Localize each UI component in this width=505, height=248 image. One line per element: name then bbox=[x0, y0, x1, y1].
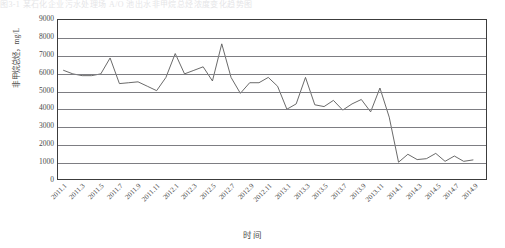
y-axis-tick-label: 6000 bbox=[14, 69, 54, 77]
y-axis-tick-label: 4000 bbox=[14, 104, 54, 112]
chart-page: 图3-1 某石化企业污水处理场 A/O 池出水非甲烷总烃浓度变化趋势图 非甲烷总… bbox=[0, 0, 505, 248]
y-axis-tick-label: 8000 bbox=[14, 33, 54, 41]
x-axis-tick-labels: 2011.12011.32011.52011.72011.92011.11201… bbox=[0, 182, 505, 228]
gridline bbox=[58, 127, 486, 128]
y-axis-tick-label: 9000 bbox=[14, 15, 54, 23]
gridline bbox=[58, 38, 486, 39]
gridline bbox=[58, 109, 486, 110]
x-axis-title: 时间 bbox=[0, 228, 505, 240]
gridline bbox=[58, 56, 486, 57]
y-axis-tick-label: 7000 bbox=[14, 51, 54, 59]
gridline bbox=[58, 163, 486, 164]
plot-area bbox=[57, 19, 487, 180]
gridline bbox=[58, 92, 486, 93]
data-series-line bbox=[58, 20, 486, 179]
y-axis-tick-label: 1000 bbox=[14, 158, 54, 166]
clipped-caption-text: 图3-1 某石化企业污水处理场 A/O 池出水非甲烷总烃浓度变化趋势图 bbox=[0, 0, 505, 9]
y-axis-tick-label: 3000 bbox=[14, 122, 54, 130]
y-axis-tick-label: 2000 bbox=[14, 140, 54, 148]
gridline bbox=[58, 145, 486, 146]
gridline bbox=[58, 74, 486, 75]
y-axis-tick-label: 5000 bbox=[14, 87, 54, 95]
